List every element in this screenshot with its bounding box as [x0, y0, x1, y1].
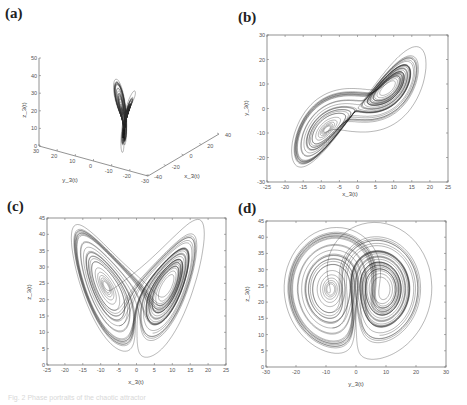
x-tick-label: 0 — [135, 367, 138, 373]
attractor-trajectory-xy — [292, 47, 426, 168]
x-tick-label: -10 — [322, 369, 330, 375]
y-tick-label: 0 — [42, 362, 45, 368]
y-tick-label: 15 — [258, 315, 264, 321]
y-axis-label-d: z_3(t) — [244, 286, 250, 301]
x-tick-label: -5 — [337, 184, 342, 190]
x-tick-label: 30 — [443, 369, 449, 375]
y-tick-label: 30 — [259, 32, 265, 38]
attractor-trajectory-xz — [71, 219, 204, 357]
x-tick-label: -5 — [116, 367, 121, 373]
y-tick-label: -10 — [257, 130, 265, 136]
y-tick-label: 10 — [69, 158, 75, 164]
y-tick-label: 20 — [258, 299, 264, 305]
y-axis-label-b: y_3(t) — [243, 100, 249, 115]
y-tick-label: -10 — [105, 168, 113, 174]
y-tick-label: -30 — [141, 178, 149, 184]
figure-caption: Fig. 2 Phase portraits of the chaotic at… — [8, 394, 146, 401]
plot-frame-b — [267, 35, 448, 182]
y-tick-label: -30 — [257, 179, 265, 185]
y-tick-label: 0 — [89, 163, 92, 169]
figure-canvas: 01020304050 3020100-10-20-30 -40-2002040… — [0, 0, 467, 405]
attractor-trajectory-3d — [114, 79, 136, 152]
z-tick-label: 50 — [31, 55, 37, 61]
x-tick-label: -20 — [61, 367, 69, 373]
x-tick-label: 5 — [153, 367, 156, 373]
x-tick-label: 0 — [190, 153, 193, 159]
y-axis-ticks: 3020100-10-20-30 — [33, 144, 149, 184]
y-tick-label: 15 — [39, 313, 45, 319]
x-tick-label: -20 — [281, 184, 289, 190]
y-tick-label: 0 — [261, 364, 264, 370]
z-axis-ticks: 01020304050 — [31, 55, 41, 149]
x-tick-label: 25 — [223, 367, 229, 373]
x-axis-label-d: y_3(t) — [348, 381, 363, 387]
chart-panel-d: -30-20-100102030454035302520151050 y_3(t… — [244, 218, 449, 387]
y-tick-label: 45 — [39, 215, 45, 221]
y-tick-label: 20 — [259, 57, 265, 63]
chart-panel-a: 01020304050 3020100-10-20-30 -40-2002040… — [21, 55, 231, 184]
x-tick-label: -10 — [97, 367, 105, 373]
axis-ticks-b: -25-20-15-10-505101520253020100-10-20-30 — [257, 32, 451, 190]
x-axis-label-b: x_3(t) — [342, 191, 357, 197]
y-tick-label: -20 — [257, 155, 265, 161]
y-tick-label: 10 — [39, 329, 45, 335]
x-tick-label: 0 — [356, 184, 359, 190]
y-tick-label: 30 — [33, 148, 39, 154]
x-tick-label: 40 — [225, 132, 231, 138]
x-tick-label: 15 — [409, 184, 415, 190]
z-tick-label: 40 — [31, 73, 37, 79]
axis-ticks-c: -25-20-15-10-505101520254540353025201510… — [39, 215, 229, 373]
x-axis-label-c: x_3(t) — [128, 379, 143, 385]
x-tick-label: 20 — [207, 143, 213, 149]
x-tick-label: 10 — [391, 184, 397, 190]
y-tick-label: 35 — [39, 248, 45, 254]
z-tick-label: 20 — [31, 108, 37, 114]
y-axis-label-c: z_3(t) — [26, 284, 32, 299]
y-tick-label: 45 — [258, 218, 264, 224]
y-tick-label: 40 — [258, 234, 264, 240]
chart-panel-c: -25-20-15-10-505101520254540353025201510… — [26, 215, 229, 385]
x-tick-label: 25 — [445, 184, 451, 190]
z-axis-label: z_3(t) — [21, 102, 27, 117]
x-tick-label: -15 — [79, 367, 87, 373]
x-tick-label: 20 — [427, 184, 433, 190]
x-tick-label: 20 — [413, 369, 419, 375]
x-tick-label: 0 — [354, 369, 357, 375]
y-tick-label: 40 — [39, 231, 45, 237]
y-tick-label: 35 — [258, 250, 264, 256]
y-tick-label: 25 — [39, 280, 45, 286]
y-tick-label: 10 — [258, 332, 264, 338]
chart-panel-b: -25-20-15-10-505101520253020100-10-20-30… — [243, 32, 451, 197]
y-tick-label: 25 — [258, 283, 264, 289]
attractor-trajectory-yz — [284, 222, 432, 359]
x-tick-label: -20 — [172, 164, 180, 170]
z-tick-label: 30 — [31, 90, 37, 96]
y-tick-label: -20 — [123, 173, 131, 179]
x-tick-label: -20 — [292, 369, 300, 375]
x-tick-label: 10 — [169, 367, 175, 373]
x-tick-label: -10 — [317, 184, 325, 190]
x-tick-label: -40 — [154, 174, 162, 180]
y-tick-label: 30 — [258, 267, 264, 273]
x-tick-label: -15 — [299, 184, 307, 190]
y-axis-label: y_3(t) — [62, 177, 77, 183]
x-axis-label: x_3(t) — [184, 173, 199, 179]
x-tick-label: 15 — [187, 367, 193, 373]
y-tick-label: 5 — [261, 348, 264, 354]
x-tick-label: 20 — [205, 367, 211, 373]
y-tick-label: 30 — [39, 264, 45, 270]
x-tick-label: 10 — [383, 369, 389, 375]
x-tick-label: 5 — [374, 184, 377, 190]
y-tick-label: 0 — [262, 106, 265, 112]
y-tick-label: 10 — [259, 81, 265, 87]
y-tick-label: 5 — [42, 346, 45, 352]
z-tick-label: 10 — [31, 125, 37, 131]
y-tick-label: 20 — [51, 153, 57, 159]
y-tick-label: 20 — [39, 297, 45, 303]
